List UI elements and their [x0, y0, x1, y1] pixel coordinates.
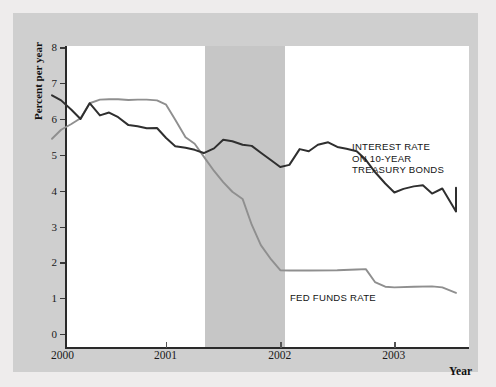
treasury-annotation-line-3: TREASURY BONDS [352, 164, 444, 176]
treasury-annotation-line-1: INTEREST RATE [352, 141, 444, 153]
x-axis-title: Year [449, 365, 472, 377]
fed-funds-rate-annotation: FED FUNDS RATE [290, 292, 376, 304]
chart-card: Percent per year 012345678 2000200120022… [13, 13, 478, 372]
treasury-annotation-line-2: ON 10-YEAR [352, 153, 444, 165]
series-lines [13, 13, 478, 372]
treasury-bonds-annotation: INTEREST RATE ON 10-YEAR TREASURY BONDS [352, 141, 444, 176]
series-line-fed-funds-rate [52, 99, 456, 293]
chart-page: Percent per year 012345678 2000200120022… [0, 0, 496, 387]
